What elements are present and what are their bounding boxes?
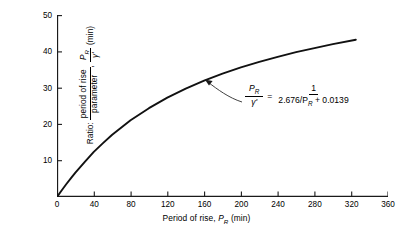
y-tick-label-20: 20: [34, 120, 52, 129]
x-tick-label-320: 320: [338, 200, 366, 209]
equation-rhs-numerator: 1: [309, 84, 318, 95]
y-tick-label-40: 40: [34, 47, 52, 56]
x-tick-label-120: 120: [154, 200, 182, 209]
equation-rhs: 1 2.676/PR + 0.0139: [276, 84, 350, 107]
y-axis-title-prefix: Ratio:: [86, 122, 95, 144]
equation-lhs-numerator: PR: [245, 84, 263, 97]
y-axis-title-symbol-numerator: PR: [80, 48, 92, 62]
x-tick-label-40: 40: [81, 200, 107, 209]
y-axis-title: Ratio: period of rise parameter , PR γ' …: [78, 5, 102, 165]
x-axis-title-symbol-sub: R: [224, 218, 229, 225]
x-axis-title-text: Period of rise,: [163, 213, 216, 223]
y-axis-title-symbol-fraction: PR γ': [80, 48, 101, 62]
y-tick-label-50: 50: [34, 11, 52, 20]
x-tick-label-240: 240: [264, 200, 292, 209]
y-tick-label-30: 30: [34, 83, 52, 92]
y-axis-title-comma: ,: [86, 65, 95, 67]
x-tick-label-360: 360: [374, 200, 402, 209]
equation-annotation: PR γ' = 1 2.676/PR + 0.0139: [245, 84, 351, 107]
figure-container: 50 40 30 20 10 0 40 80 120 160 200 240 2…: [0, 0, 413, 242]
y-axis-title-units: (min): [86, 26, 95, 45]
x-tick-label-280: 280: [301, 200, 329, 209]
x-axis-ticks: [94, 192, 388, 197]
x-axis-title-units: (min): [231, 213, 251, 223]
figure-caption: [8, 235, 406, 242]
equation-lhs: PR γ': [245, 84, 263, 107]
y-axis-title-ratio-fraction: period of rise parameter: [80, 67, 99, 120]
x-tick-label-200: 200: [227, 200, 255, 209]
equation-equals-sign: =: [267, 91, 272, 101]
equation-rhs-denominator: 2.676/PR + 0.0139: [276, 95, 350, 107]
x-tick-label-80: 80: [118, 200, 144, 209]
y-axis-ticks: [58, 16, 63, 161]
y-tick-label-10: 10: [34, 156, 52, 165]
y-axis-title-ratio-numerator: period of rise: [80, 67, 90, 120]
x-tick-label-160: 160: [191, 200, 219, 209]
y-axis-title-ratio-denominator: parameter: [91, 73, 100, 115]
x-tick-label-0: 0: [46, 200, 68, 209]
annotation-leader: [205, 80, 242, 102]
y-axis-title-symbol-denominator: γ': [91, 50, 100, 60]
x-axis-title: Period of rise, PR (min): [0, 213, 413, 225]
equation-lhs-denominator: γ': [247, 97, 261, 107]
